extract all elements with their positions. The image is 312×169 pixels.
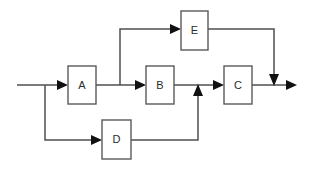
arrowhead-into-d xyxy=(91,135,102,145)
block-c-label: C xyxy=(234,79,242,91)
arrowhead-into-e xyxy=(170,24,181,34)
block-b[interactable]: B xyxy=(146,66,174,104)
arrowhead-into-a xyxy=(57,80,68,90)
block-d-label: D xyxy=(113,133,121,145)
block-d[interactable]: D xyxy=(102,120,131,159)
block-e[interactable]: E xyxy=(181,11,208,50)
arrowhead-d-return-up xyxy=(193,84,203,96)
block-a[interactable]: A xyxy=(68,66,96,104)
block-c[interactable]: C xyxy=(224,66,252,104)
diagram-svg: A B C D E xyxy=(0,0,312,169)
arrowhead-into-c xyxy=(213,80,224,90)
arrowhead-e-return-down xyxy=(269,74,279,86)
block-b-label: B xyxy=(156,79,163,91)
arrowhead-into-b xyxy=(135,80,146,90)
arrowhead-output xyxy=(286,80,297,90)
block-diagram-canvas: A B C D E xyxy=(0,0,312,169)
block-a-label: A xyxy=(78,79,86,91)
block-e-label: E xyxy=(191,24,198,36)
